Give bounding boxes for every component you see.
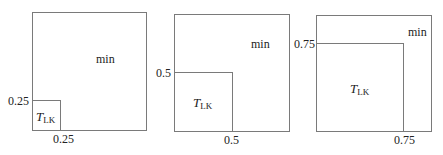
x-tick-label: 0.25 bbox=[53, 133, 74, 145]
min-region-label: min bbox=[96, 53, 115, 65]
y-tick-label: 0.25 bbox=[8, 95, 29, 107]
y-tick-label: 0.75 bbox=[294, 38, 315, 50]
min-region-label: min bbox=[408, 26, 427, 38]
tlk-region-label: TLK bbox=[350, 82, 369, 99]
tlk-sub: LK bbox=[43, 115, 55, 125]
x-tick-label: 0.75 bbox=[394, 134, 415, 146]
min-region-label: min bbox=[251, 38, 270, 50]
x-tick-label: 0.5 bbox=[224, 134, 239, 146]
tlk-region-label: TLK bbox=[193, 96, 212, 113]
y-tick-label: 0.5 bbox=[156, 67, 171, 79]
tlk-sub: LK bbox=[357, 87, 369, 97]
tlk-sub: LK bbox=[200, 101, 212, 111]
tlk-region-label: TLK bbox=[36, 110, 55, 127]
